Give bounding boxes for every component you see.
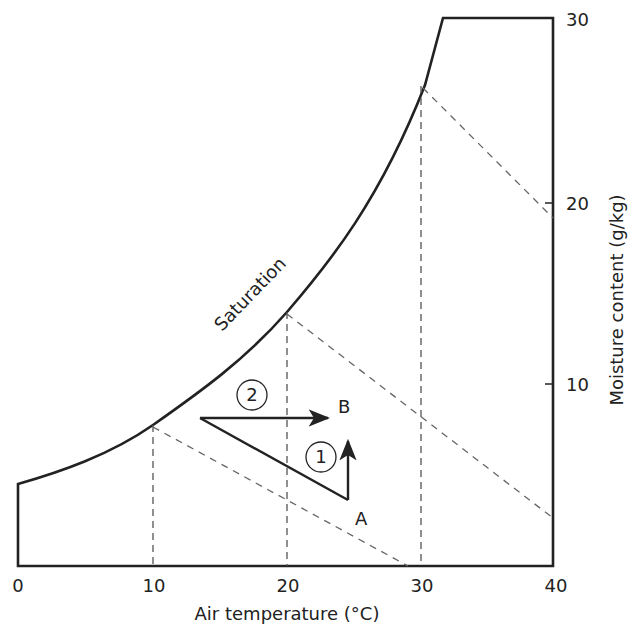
x-tick-labels: 0 10 20 30 40 — [12, 575, 567, 596]
wet-bulb-lines — [153, 88, 553, 566]
svg-text:20: 20 — [277, 575, 300, 596]
svg-text:20: 20 — [566, 193, 589, 214]
psychrometric-chart: 2 1 B A Saturation 0 10 20 30 40 Air tem… — [0, 0, 642, 643]
svg-text:30: 30 — [411, 575, 434, 596]
point-a-label: A — [355, 508, 368, 529]
chart-boundary — [18, 18, 553, 566]
svg-text:0: 0 — [12, 575, 23, 596]
step-1-label: 1 — [315, 446, 326, 467]
y-tick-labels: 30 20 10 — [566, 9, 589, 395]
dew-point-lines — [153, 86, 421, 566]
x-axis-label: Air temperature (°C) — [195, 603, 380, 624]
svg-text:30: 30 — [566, 9, 589, 30]
svg-text:10: 10 — [143, 575, 166, 596]
svg-text:40: 40 — [545, 575, 568, 596]
svg-text:10: 10 — [566, 374, 589, 395]
y-axis-label: Moisture content (g/kg) — [606, 194, 627, 405]
step-2-label: 2 — [246, 384, 257, 405]
point-b-label: B — [338, 396, 350, 417]
